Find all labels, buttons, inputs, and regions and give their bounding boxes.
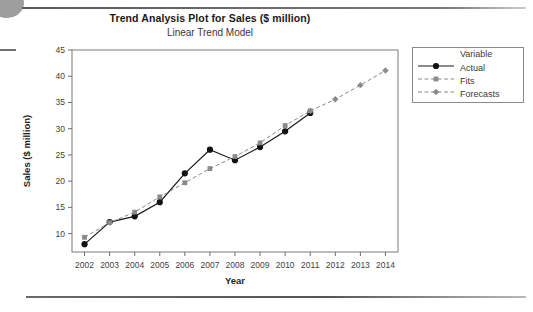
legend-label-actual: Actual [460, 63, 485, 73]
y-tick-label: 30 [56, 124, 66, 134]
data-point-actual [207, 147, 213, 153]
legend-label-forecasts: Forecasts [460, 89, 500, 99]
data-point-actual [81, 241, 87, 247]
data-point-fits [283, 123, 288, 128]
data-point-forecasts [357, 82, 363, 88]
series-line-fits [85, 111, 311, 237]
scanned-page: Trend Analysis Plot for Sales ($ million… [0, 0, 533, 312]
data-point-forecasts [332, 96, 338, 102]
y-axis: 1015202530354045 [56, 45, 72, 239]
plot-frame [72, 50, 398, 252]
x-tick-label: 2006 [175, 260, 194, 270]
data-point-fits [182, 180, 187, 185]
legend-label-fits: Fits [460, 76, 475, 86]
series-layer [81, 67, 388, 247]
x-axis: 2002200320042005200620072008200920102011… [75, 252, 395, 270]
x-tick-label: 2013 [351, 260, 370, 270]
x-tick-label: 2010 [276, 260, 295, 270]
y-axis-title: Sales ($ million) [21, 115, 32, 187]
x-tick-label: 2004 [125, 260, 144, 270]
y-tick-label: 40 [56, 71, 66, 81]
x-tick-label: 2002 [75, 260, 94, 270]
y-tick-label: 35 [56, 97, 66, 107]
data-point-forecasts [382, 67, 388, 73]
data-point-fits [132, 210, 137, 215]
x-tick-label: 2009 [251, 260, 270, 270]
y-tick-label: 10 [56, 229, 66, 239]
x-tick-label: 2011 [301, 260, 320, 270]
data-point-fits [82, 235, 87, 240]
data-point-fits [258, 140, 263, 145]
y-tick-label: 15 [56, 202, 66, 212]
x-tick-label: 2003 [100, 260, 119, 270]
data-point-fits [107, 220, 112, 225]
series-line-actual [85, 113, 311, 244]
series-line-forecasts [310, 70, 385, 110]
x-tick-label: 2008 [226, 260, 245, 270]
data-point-actual [182, 170, 188, 176]
data-point-fits [157, 195, 162, 200]
y-tick-label: 25 [56, 150, 66, 160]
y-tick-label: 20 [56, 176, 66, 186]
x-tick-label: 2012 [326, 260, 345, 270]
data-point-fits [233, 154, 238, 159]
x-tick-label: 2007 [200, 260, 219, 270]
x-axis-title: Year [225, 275, 245, 286]
data-point-actual [157, 199, 163, 205]
y-tick-label: 45 [56, 45, 66, 55]
x-tick-label: 2014 [376, 260, 395, 270]
data-point-actual [282, 128, 288, 134]
x-tick-label: 2005 [150, 260, 169, 270]
legend-title: Variable [460, 49, 492, 59]
data-point-fits [208, 166, 213, 171]
